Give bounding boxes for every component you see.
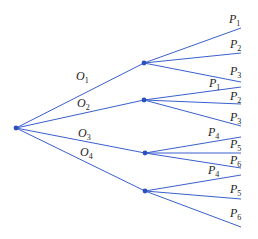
node-o3 xyxy=(143,151,148,156)
label-p2: P2 xyxy=(229,37,241,53)
label-o2: O2 xyxy=(77,96,90,112)
edge-o3-p6 xyxy=(145,153,241,168)
label-p5: P5 xyxy=(229,137,241,153)
root-node xyxy=(14,126,19,131)
edge-o3-p4 xyxy=(145,137,241,153)
label-p5: P5 xyxy=(229,182,241,198)
edge-o4-p5 xyxy=(145,191,241,199)
node-o2 xyxy=(142,98,147,103)
tree-diagram: P1P2P3O1P1P2P3O2P4P5P6O3P4P5P6O4 xyxy=(0,0,258,239)
label-o3: O3 xyxy=(78,126,91,142)
node-o1 xyxy=(142,61,147,66)
label-p2: P2 xyxy=(229,89,241,105)
edge-o2-p1 xyxy=(144,87,241,100)
label-p3: P3 xyxy=(229,110,241,126)
label-p4: P4 xyxy=(207,125,219,141)
label-o4: O4 xyxy=(80,145,93,161)
label-p1: P1 xyxy=(228,12,240,28)
node-o4 xyxy=(143,189,148,194)
label-p3: P3 xyxy=(229,64,241,80)
edge-o4-p6 xyxy=(145,191,241,227)
label-o1: O1 xyxy=(76,69,89,85)
label-p4: P4 xyxy=(207,163,219,179)
label-p6: P6 xyxy=(229,153,241,169)
edge-o1-p3 xyxy=(144,63,241,82)
label-p1: P1 xyxy=(208,76,220,92)
tree-svg: P1P2P3O1P1P2P3O2P4P5P6O3P4P5P6O4 xyxy=(0,0,258,239)
label-p6: P6 xyxy=(229,206,241,222)
edge-o4-p4 xyxy=(145,175,241,191)
